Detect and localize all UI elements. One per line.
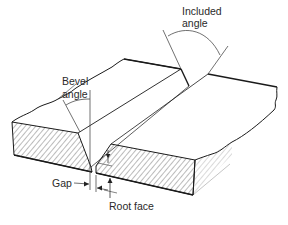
- bevel-angle-label-line2: angle: [62, 88, 88, 100]
- left-plate-top-edge: [12, 59, 181, 122]
- included-angle-label-line2: angle: [182, 17, 208, 29]
- left-plate-section: [12, 122, 92, 172]
- gap-label: Gap: [52, 177, 72, 189]
- right-plate: [96, 74, 277, 195]
- right-plate-section: [96, 144, 195, 195]
- included-angle-label-line1: Included: [182, 5, 222, 17]
- bevel-angle-label-line1: Bevel: [62, 75, 88, 87]
- root-face-label: Root face: [109, 200, 154, 212]
- weld-joint-diagram: [0, 0, 288, 225]
